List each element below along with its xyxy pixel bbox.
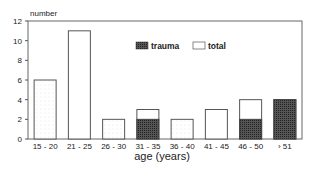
- x-tick-label: 41 - 45: [204, 142, 229, 151]
- bar-trauma: [240, 119, 262, 139]
- bar-total: [34, 80, 56, 139]
- y-tick-label: 0: [18, 135, 23, 144]
- bar-group: [274, 100, 296, 139]
- legend-swatch-trauma: [136, 42, 148, 49]
- x-tick-label: 15 - 20: [33, 142, 58, 151]
- bar-total: [103, 119, 125, 139]
- y-tick-label: 4: [18, 96, 23, 105]
- y-tick-label: 12: [13, 17, 22, 26]
- bar-group: [68, 31, 90, 139]
- y-tick-label: 6: [18, 76, 23, 85]
- bar-group: [171, 119, 193, 139]
- y-tick-label: 2: [18, 115, 23, 124]
- legend-label-total: total: [208, 41, 226, 51]
- bar-trauma: [274, 100, 296, 139]
- legend-label-trauma: trauma: [151, 41, 180, 51]
- y-axis: 024681012: [13, 17, 28, 144]
- bar-group: [34, 80, 56, 139]
- bar-total: [68, 31, 90, 139]
- bar-group: [103, 119, 125, 139]
- x-tick-label: 26 - 30: [101, 142, 126, 151]
- bar-group: [137, 110, 159, 140]
- y-tick-label: 10: [13, 37, 22, 46]
- y-axis-label: number: [30, 9, 57, 18]
- x-tick-label: 46 - 50: [238, 142, 263, 151]
- bar-trauma: [137, 119, 159, 139]
- bar-total: [205, 110, 227, 140]
- legend: trauma total: [136, 41, 226, 51]
- x-axis-label: age (years): [134, 150, 190, 162]
- bar-group: [205, 110, 227, 140]
- bar-group: [240, 100, 262, 139]
- x-tick-label: › 51: [278, 142, 292, 151]
- legend-swatch-total: [193, 42, 205, 49]
- bar-total: [171, 119, 193, 139]
- x-tick-label: 21 - 25: [67, 142, 92, 151]
- bar-chart: 024681012 15 - 2021 - 2526 - 3031 - 3536…: [0, 0, 317, 176]
- y-tick-label: 8: [18, 56, 23, 65]
